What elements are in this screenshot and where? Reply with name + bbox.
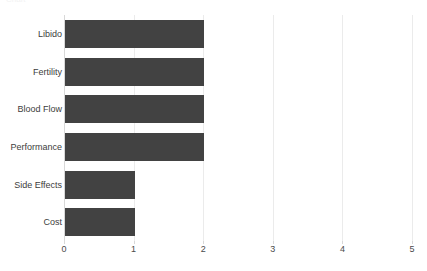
x-tick-mark <box>64 241 65 244</box>
x-gridline <box>203 15 204 241</box>
y-tick-label: Cost <box>4 217 62 227</box>
bar-cost <box>65 208 135 236</box>
bar-performance <box>65 133 204 161</box>
y-axis-tick-labels: LibidoFertilityBlood FlowPerformanceSide… <box>0 15 62 241</box>
x-tick-mark <box>134 241 135 244</box>
y-tick-label: Blood Flow <box>4 104 62 114</box>
y-tick-label: Libido <box>4 29 62 39</box>
plot-area <box>64 15 412 241</box>
x-gridline <box>412 15 413 241</box>
x-tick-mark <box>203 241 204 244</box>
bar-libido <box>65 20 204 48</box>
x-tick-mark <box>342 241 343 244</box>
x-gridline <box>134 15 135 241</box>
x-tick-label: 1 <box>131 243 136 255</box>
y-tick-label: Fertility <box>4 67 62 77</box>
bar-chart-figure: Chart LibidoFertilityBlood FlowPerforman… <box>0 0 427 271</box>
y-tick-label: Performance <box>4 142 62 152</box>
x-tick-mark <box>412 241 413 244</box>
x-gridline <box>342 15 343 241</box>
bar-side-effects <box>65 171 135 199</box>
x-tick-mark <box>273 241 274 244</box>
bar-fertility <box>65 58 204 86</box>
bar-blood-flow <box>65 95 204 123</box>
x-tick-label: 0 <box>61 243 66 255</box>
x-axis-tick-labels: 012345 <box>0 243 427 259</box>
y-tick-label: Side Effects <box>4 180 62 190</box>
chart-title: Chart <box>6 0 26 5</box>
x-tick-label: 3 <box>270 243 275 255</box>
x-tick-label: 4 <box>340 243 345 255</box>
x-tick-label: 2 <box>201 243 206 255</box>
truncated-title-strip: Chart <box>6 0 52 6</box>
x-tick-label: 5 <box>409 243 414 255</box>
x-gridline <box>273 15 274 241</box>
